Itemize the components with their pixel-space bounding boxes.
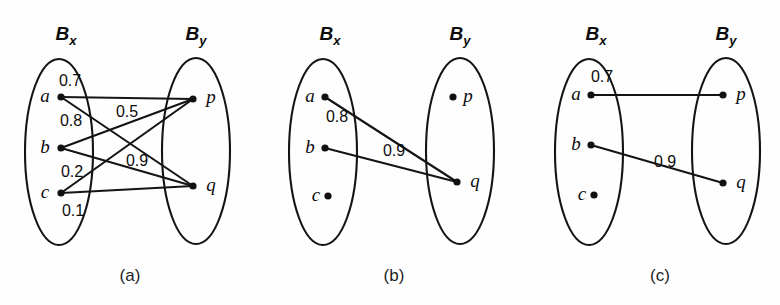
panel-b-node-c-dot: [324, 192, 331, 199]
panel-a-weight-b-p: 0.8: [60, 112, 82, 129]
panel-b-node-b-label: b: [305, 136, 315, 157]
panel-a-edge-c-q: [61, 186, 193, 193]
panel-c-node-q-dot: [719, 179, 726, 186]
panel-a: Bx By a b c p q 0.7 0: [25, 23, 230, 285]
panel-c-weight-a-p: 0.7: [591, 68, 613, 85]
panel-b-caption: (b): [384, 266, 405, 285]
panel-c-node-q-label: q: [736, 171, 746, 192]
panel-a-caption: (a): [120, 266, 141, 285]
panel-a-weight-b-q: 0.9: [126, 152, 148, 169]
panel-a-node-p-dot: [189, 95, 196, 102]
panel-b-node-a-label: a: [305, 85, 315, 106]
panel-c-node-a-label: a: [571, 83, 581, 104]
panel-c-left-set-label: Bx: [586, 23, 608, 48]
panel-b: Bx By a b c p q 0.8 0.9 (b): [289, 23, 494, 285]
panel-c-caption: (c): [650, 266, 670, 285]
panel-c-weight-b-q: 0.9: [654, 153, 676, 170]
panel-c-right-set-ellipse: [692, 58, 760, 244]
panel-a-weight-a-q: 0.5: [116, 103, 138, 120]
panel-a-node-q-dot: [189, 182, 196, 189]
panel-b-node-b-dot: [321, 144, 328, 151]
panel-a-edge-a-p: [61, 97, 193, 99]
panel-b-left-set-label: Bx: [320, 23, 342, 48]
panel-b-right-set-ellipse: [426, 58, 494, 244]
panel-b-node-c-label: c: [312, 184, 321, 205]
panel-a-node-c-label: c: [41, 181, 50, 202]
panel-a-right-set-ellipse: [162, 58, 230, 244]
panel-b-node-q-label: q: [470, 170, 480, 191]
panel-b-node-a-dot: [321, 93, 328, 100]
panel-c-node-p-label: p: [734, 83, 746, 104]
panel-a-node-c-dot: [57, 189, 64, 196]
panel-c: Bx By a b c p q 0.7 0.9 (c): [555, 23, 760, 285]
panel-b-weight-b-q: 0.9: [383, 142, 405, 159]
panel-a-node-q-label: q: [206, 174, 216, 195]
panel-a-left-set-label: Bx: [56, 23, 78, 48]
panel-a-node-b-label: b: [40, 136, 50, 157]
panel-b-weight-a-q: 0.8: [326, 108, 348, 125]
panel-a-node-b-dot: [57, 144, 64, 151]
bipartite-graphs-figure: Bx By a b c p q 0.7 0: [0, 0, 780, 305]
panel-a-right-set-label: By: [186, 23, 208, 48]
panel-b-node-p-dot: [449, 93, 456, 100]
panel-a-weight-c-q: 0.1: [62, 202, 84, 219]
figure-root: Bx By a b c p q 0.7 0: [0, 0, 780, 305]
panel-a-weight-c-p: 0.2: [61, 163, 83, 180]
panel-c-node-c-dot: [590, 191, 597, 198]
panel-b-left-set-ellipse: [289, 59, 357, 245]
panel-b-node-p-label: p: [461, 85, 473, 106]
panel-c-node-b-label: b: [571, 133, 581, 154]
panel-a-node-a-dot: [57, 93, 64, 100]
panel-c-node-c-label: c: [578, 183, 587, 204]
panel-b-node-q-dot: [453, 178, 460, 185]
panel-c-node-a-dot: [587, 91, 594, 98]
panel-a-weight-a-p: 0.7: [59, 72, 81, 89]
panel-a-node-a-label: a: [40, 85, 50, 106]
panel-c-node-p-dot: [719, 91, 726, 98]
panel-c-node-b-dot: [587, 141, 594, 148]
panel-b-right-set-label: By: [450, 23, 472, 48]
panel-a-node-p-label: p: [204, 86, 216, 107]
panel-c-right-set-label: By: [716, 23, 738, 48]
